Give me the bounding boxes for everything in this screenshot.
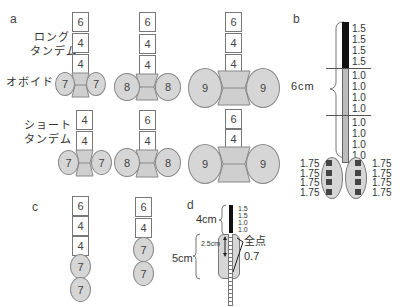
ovoid-left: 9 bbox=[188, 68, 222, 108]
source-marker bbox=[355, 189, 361, 195]
weight-label: 1.0 bbox=[352, 103, 366, 114]
tandem-segment: 6 bbox=[72, 196, 89, 216]
tandem-segment: 6 bbox=[139, 110, 156, 130]
ovoid: 7 bbox=[133, 261, 154, 286]
ovoid: 7 bbox=[70, 277, 91, 302]
weight-label: 1.0 bbox=[352, 128, 366, 139]
tandem-segment: 6 bbox=[225, 12, 242, 32]
lower-bracket bbox=[193, 234, 201, 279]
ovoid-left: 8 bbox=[114, 148, 140, 177]
ovoid: 7 bbox=[133, 237, 154, 262]
ovoid-right: 8 bbox=[155, 148, 181, 177]
weight-label: 1.5 bbox=[238, 205, 248, 212]
tandem-segment: 4 bbox=[76, 110, 93, 130]
weight-label: 1.0 bbox=[352, 139, 366, 150]
weight-label: 1.5 bbox=[352, 56, 366, 67]
source-marker bbox=[326, 160, 332, 166]
source-marker bbox=[326, 189, 332, 195]
panel-c-label: c bbox=[32, 200, 38, 214]
tandem-segment: 4 bbox=[225, 129, 242, 149]
ovoid-right: 9 bbox=[246, 68, 280, 108]
tandem-segment: 4 bbox=[72, 54, 89, 74]
short-tandem-label: ショート タンデム bbox=[24, 118, 70, 146]
panel-d-label: d bbox=[187, 198, 194, 212]
weight-label: 1.0 bbox=[238, 219, 248, 226]
weight-label: 1.5 bbox=[352, 23, 366, 34]
tandem-segment: 6 bbox=[135, 197, 152, 217]
lower-length-label: 5cm bbox=[172, 252, 193, 264]
divider-line bbox=[326, 115, 371, 116]
tandem-dark-section bbox=[342, 22, 349, 68]
tandem-segment: 4 bbox=[72, 33, 89, 53]
source-marker bbox=[355, 160, 361, 166]
tandem-segment: 4 bbox=[135, 218, 152, 238]
length-label: 6cm bbox=[291, 80, 315, 92]
ovoid-left: 8 bbox=[114, 73, 140, 101]
ovoid-left: 7 bbox=[58, 150, 79, 175]
weight-label: 1.0 bbox=[352, 117, 366, 128]
short-tandem-label-line2: タンデム bbox=[24, 132, 70, 146]
ovoid-left-shape bbox=[321, 157, 343, 199]
weight-label: 1.75 bbox=[372, 187, 391, 198]
panel-b-label: b bbox=[293, 12, 300, 26]
source-marker bbox=[326, 179, 332, 185]
upper-length-label: 4cm bbox=[196, 213, 217, 225]
source-marker bbox=[326, 170, 332, 176]
ovoid-left: 9 bbox=[188, 144, 222, 184]
tandem-segment: 4 bbox=[76, 131, 93, 151]
upper-bracket bbox=[219, 205, 227, 235]
weight-label: 1.0 bbox=[352, 70, 366, 81]
source-marker bbox=[355, 170, 361, 176]
panel-a-label: a bbox=[10, 12, 17, 26]
weight-label: 1.0 bbox=[352, 92, 366, 103]
long-tandem-label: ロング タンデム bbox=[30, 30, 70, 58]
tandem-segment: 6 bbox=[139, 12, 156, 32]
ovoid-right: 8 bbox=[155, 73, 181, 101]
weight-label: 1.75 bbox=[300, 187, 319, 198]
tandem-segment: 4 bbox=[139, 34, 156, 54]
tandem-segment: 4 bbox=[225, 33, 242, 53]
ovoid-label: オボイド bbox=[4, 75, 54, 89]
long-tandem-label-line1: ロング bbox=[30, 30, 70, 44]
weight-label: 1.5 bbox=[352, 45, 366, 56]
weight-label: 1.0 bbox=[352, 81, 366, 92]
short-tandem-label-line1: ショート bbox=[24, 118, 70, 132]
ovoid: 7 bbox=[70, 254, 91, 279]
point-label: 全点 bbox=[244, 232, 266, 248]
point-value: 0.7 bbox=[244, 250, 259, 262]
source-marker bbox=[355, 179, 361, 185]
tandem-segment: 4 bbox=[139, 131, 156, 151]
ovoid-left: 7 bbox=[55, 72, 75, 96]
tandem-segment: 6 bbox=[225, 109, 242, 129]
tandem-segment: 4 bbox=[72, 216, 89, 236]
weight-label: 1.5 bbox=[352, 34, 366, 45]
ovoid-right: 9 bbox=[246, 144, 280, 184]
tandem-dark-section bbox=[229, 205, 233, 233]
tandem-segment: 4 bbox=[139, 55, 156, 75]
ovoid-right: 7 bbox=[86, 72, 106, 96]
weight-label: 1.5 bbox=[238, 212, 248, 219]
tandem-segment: 6 bbox=[72, 12, 89, 32]
long-tandem-label-line2: タンデム bbox=[30, 44, 70, 58]
ovoid-right: 7 bbox=[91, 150, 112, 175]
tandem-segment: 4 bbox=[72, 236, 89, 256]
divider-line bbox=[326, 68, 371, 69]
